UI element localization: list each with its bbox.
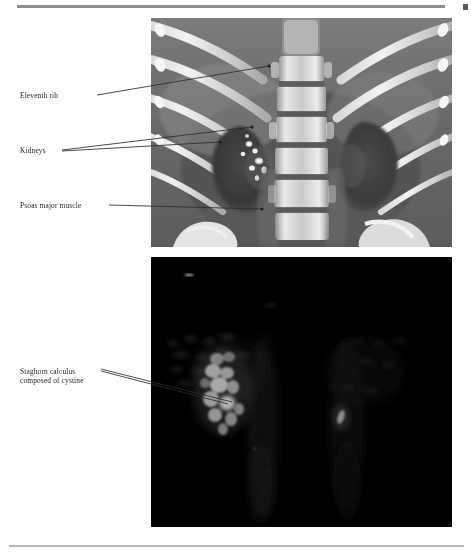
ct-coronal-image <box>151 18 452 247</box>
volume-rendering-graphic <box>151 257 452 527</box>
volume-rendering-image <box>151 257 452 527</box>
page-rule-top <box>17 5 445 8</box>
label-eleventh-rib: Eleventh rib <box>20 91 58 100</box>
label-psoas-major-muscle: Psoas major muscle <box>20 201 81 210</box>
label-kidneys: Kidneys <box>20 146 46 155</box>
ct-coronal-graphic <box>151 18 452 247</box>
corner-mark <box>463 4 468 10</box>
page-rule-bottom <box>9 545 464 547</box>
label-staghorn-calculus: Staghorn calculus composed of cystine <box>20 367 84 386</box>
